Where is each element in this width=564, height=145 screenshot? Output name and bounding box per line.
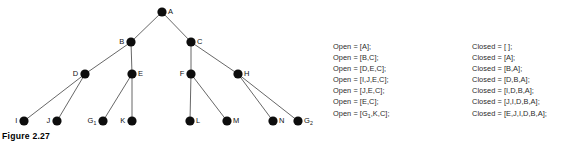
tree-node-label-N: N <box>279 117 285 125</box>
tree-node-M <box>222 116 231 125</box>
tree-node-C <box>186 37 195 46</box>
tree-node-label-G2: G2 <box>304 117 313 126</box>
tree-node-label-G1: G1 <box>88 117 97 126</box>
tree-edge-B-D <box>85 42 131 74</box>
tree-edge-F-L <box>190 74 191 121</box>
tree-node-label-A: A <box>168 8 173 16</box>
tree-node-label-H: H <box>244 70 250 78</box>
tree-edge-D-J <box>57 74 85 121</box>
tree-node-label-E: E <box>138 70 143 78</box>
closed-state-line: Closed = [D,B,A]; <box>472 74 547 85</box>
closed-state-line: Closed = [A]; <box>472 52 547 63</box>
tree-node-N <box>268 116 277 125</box>
tree-node-B <box>126 37 135 46</box>
tree-edge-D-I <box>24 74 85 121</box>
tree-node-G2 <box>293 116 302 125</box>
tree-node-I <box>19 116 28 125</box>
tree-node-label-I: I <box>15 117 17 125</box>
tree-node-K <box>127 116 136 125</box>
closed-state-line: Closed = [E,J,I,D,B,A]; <box>472 108 547 119</box>
open-state-line: Open = [B,C]; <box>333 52 389 63</box>
tree-node-label-J: J <box>47 117 51 125</box>
tree-node-label-C: C <box>197 38 203 46</box>
tree-node-H <box>233 69 242 78</box>
tree-node-label-M: M <box>233 117 239 125</box>
tree-edge-layer <box>24 12 298 121</box>
tree-node-subscript-G1: 1 <box>94 120 97 126</box>
open-state-line: Open = [J,E,C]; <box>333 85 389 96</box>
tree-node-A <box>157 7 166 16</box>
open-state-subscript: 1 <box>368 112 371 118</box>
tree-node-label-L: L <box>196 117 200 125</box>
tree-edge-F-M <box>191 74 227 121</box>
open-state-line: Open = [E,C]; <box>333 96 389 107</box>
closed-state-line: Closed = [ ]; <box>472 41 547 52</box>
figure-page: ABCDEFHIJG1KLMNG2 Figure 2.27 Open = [A]… <box>0 0 564 145</box>
tree-node-label-K: K <box>120 117 125 125</box>
figure-caption-tree: Figure 2.27 <box>2 131 50 141</box>
tree-node-J <box>52 116 61 125</box>
tree-edge-E-G1 <box>103 74 132 121</box>
tree-edge-A-B <box>131 12 162 42</box>
tree-node-G1 <box>98 116 107 125</box>
closed-state-line: Closed = [I,D,B,A]; <box>472 85 547 96</box>
tree-edge-C-H <box>191 42 238 74</box>
tree-node-F <box>186 69 195 78</box>
tree-edge-B-E <box>131 42 132 74</box>
open-state-line: Open = [G1,K,C]; <box>333 108 389 122</box>
closed-state-line: Closed = [J,I,D,B,A]; <box>472 96 547 107</box>
tree-node-label-F: F <box>180 70 185 78</box>
search-tree-graphic <box>0 0 320 133</box>
closed-list-column: Closed = [ ];Closed = [A];Closed = [B,A]… <box>472 41 547 119</box>
open-closed-lists-figure: Open = [A];Open = [B,C];Open = [D,E,C];O… <box>320 0 564 145</box>
tree-node-label-D: D <box>73 70 79 78</box>
open-state-line: Open = [D,E,C]; <box>333 63 389 74</box>
tree-node-subscript-G2: 2 <box>310 120 313 126</box>
tree-node-L <box>185 116 194 125</box>
search-tree-figure: ABCDEFHIJG1KLMNG2 Figure 2.27 <box>0 0 320 145</box>
tree-edge-A-C <box>162 12 191 42</box>
closed-state-line: Closed = [B,A]; <box>472 63 547 74</box>
tree-node-label-B: B <box>119 38 124 46</box>
open-state-line: Open = [I,J,E,C]; <box>333 74 389 85</box>
tree-node-layer <box>19 7 302 125</box>
tree-node-E <box>127 69 136 78</box>
open-list-column: Open = [A];Open = [B,C];Open = [D,E,C];O… <box>333 41 389 121</box>
open-state-line: Open = [A]; <box>333 41 389 52</box>
tree-node-D <box>80 69 89 78</box>
